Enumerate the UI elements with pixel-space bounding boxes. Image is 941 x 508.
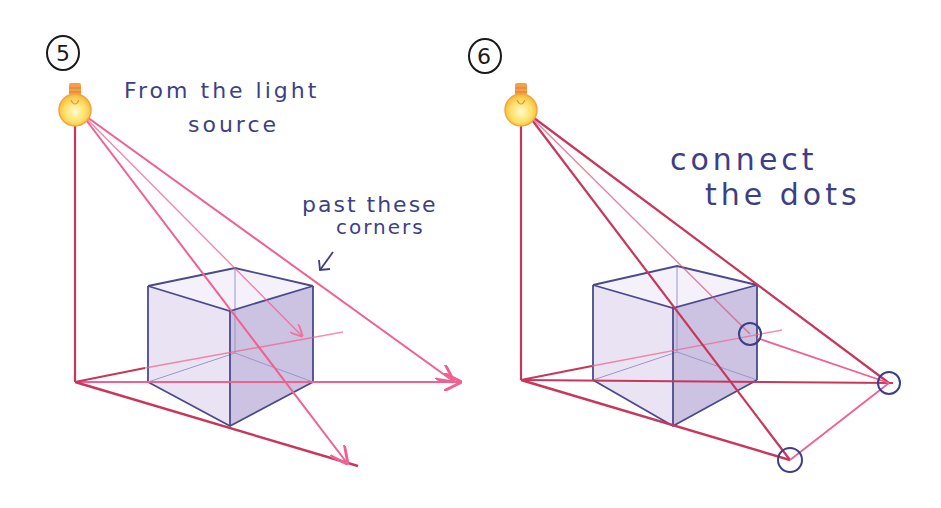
svg-text:source: source — [188, 112, 279, 137]
light-bulb-icon — [505, 83, 537, 126]
light-bulb-icon — [59, 83, 91, 126]
svg-text:the dots: the dots — [705, 177, 861, 212]
svg-text:From the light: From the light — [124, 78, 319, 103]
note-past-these-corners: past these corners — [302, 192, 438, 239]
note-from-light-source: From the light source — [124, 78, 319, 137]
svg-text:corners: corners — [336, 215, 425, 239]
panel-step-5: 5 — [47, 36, 460, 466]
svg-text:connect: connect — [670, 142, 818, 177]
step-number-5: 5 — [47, 36, 79, 70]
shadow-point-circles — [739, 323, 900, 472]
shadow-tutorial-illustration: 5 — [0, 0, 941, 508]
svg-text:6: 6 — [477, 44, 491, 69]
cube — [593, 266, 757, 426]
pointer-arrow-icon — [319, 252, 333, 270]
svg-text:5: 5 — [56, 41, 70, 66]
cube — [148, 268, 313, 426]
note-connect-the-dots: connect the dots — [670, 142, 861, 212]
svg-text:past these: past these — [302, 192, 438, 217]
panel-step-6: 6 — [469, 39, 900, 472]
step-number-6: 6 — [469, 39, 501, 73]
